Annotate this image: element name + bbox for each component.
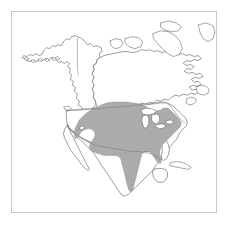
- ellesmere-island-outline: [161, 21, 182, 32]
- map-frame-border: [11, 11, 217, 213]
- victoria-island-outline: [125, 37, 143, 49]
- banks-island-outline: [110, 39, 123, 49]
- alaska-outline: [22, 36, 102, 111]
- nova-scotia-outline: [186, 97, 196, 105]
- cuba-outline: [169, 162, 191, 170]
- range-map-figure: [0, 0, 232, 226]
- newfoundland-outline: [196, 85, 209, 95]
- north-america-map: [12, 12, 216, 212]
- yucatan-outline: [153, 168, 168, 182]
- vancouver-island-outline: [63, 106, 71, 110]
- greenland-edge-outline: [198, 23, 215, 42]
